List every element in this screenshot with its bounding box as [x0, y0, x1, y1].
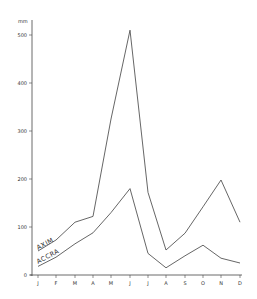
x-axis: JFMAMJJASOND: [30, 275, 242, 286]
rainfall-chart: mm 0100200300400500 JFMAMJJASOND AXIM AC…: [0, 0, 257, 299]
x-tick-label: J: [36, 280, 38, 286]
axim-series-line: [38, 30, 240, 251]
x-tick-label: J: [128, 280, 130, 286]
x-tick-label: N: [219, 280, 223, 286]
y-tick-label: 0: [24, 272, 27, 278]
y-tick-label: 100: [17, 224, 27, 230]
x-tick-label: A: [164, 280, 168, 286]
y-tick-label: 500: [17, 32, 27, 38]
x-tick-label: F: [55, 280, 58, 286]
y-tick-label: 400: [17, 80, 27, 86]
y-tick-label: 300: [17, 128, 27, 134]
x-tick-label: J: [146, 280, 148, 286]
y-axis: mm 0100200300400500: [17, 18, 32, 278]
y-tick-label: 200: [17, 176, 27, 182]
x-tick-label: M: [109, 280, 113, 286]
x-tick-label: A: [91, 280, 95, 286]
x-tick-label: O: [201, 280, 205, 286]
y-unit-label: mm: [18, 18, 28, 24]
x-tick-label: S: [183, 280, 186, 286]
x-tick-label: M: [73, 280, 77, 286]
x-tick-label: D: [238, 280, 242, 286]
